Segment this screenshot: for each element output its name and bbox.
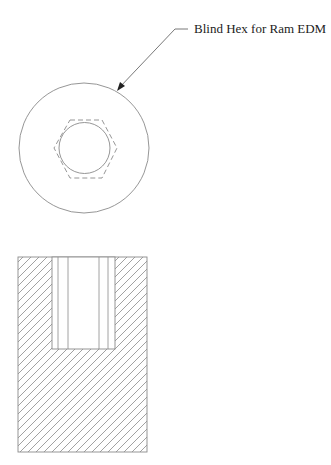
- inner-circle: [59, 123, 110, 174]
- hidden-hexagon: [54, 120, 117, 178]
- technical-drawing: [0, 0, 331, 465]
- outer-circle: [19, 83, 149, 213]
- callout-leader: [117, 29, 188, 91]
- callout-label: Blind Hex for Ram EDM: [194, 21, 326, 37]
- section-view: [18, 257, 147, 452]
- pocket: [52, 257, 115, 349]
- top-view: [19, 83, 149, 213]
- leader-diagonal: [119, 29, 175, 88]
